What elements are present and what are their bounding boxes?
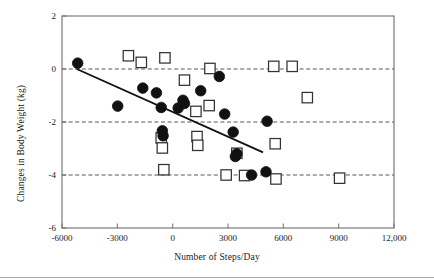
data-point-square [159, 165, 169, 175]
data-point-square [205, 63, 215, 73]
data-point-square [123, 51, 133, 61]
data-point-square [287, 61, 297, 71]
data-point-circle [158, 130, 169, 141]
data-point-circle [246, 170, 257, 181]
open-squares-series [123, 51, 345, 185]
x-tick-label: -6000 [52, 233, 73, 243]
data-point-circle [232, 149, 243, 160]
x-tick-label: 0 [170, 233, 175, 243]
x-tick-label: 9000 [330, 233, 348, 243]
data-point-square [302, 92, 312, 102]
data-point-circle [214, 71, 225, 82]
data-point-circle [137, 83, 148, 94]
y-tick-label: 2 [38, 11, 56, 21]
filled-circles-series [72, 58, 272, 180]
data-point-circle [262, 116, 273, 127]
data-point-square [160, 53, 170, 63]
data-point-circle [156, 102, 167, 113]
y-tick-label: 0 [38, 64, 56, 74]
x-tick-label: -3000 [107, 233, 128, 243]
data-point-square [136, 57, 146, 67]
trendline-group [77, 69, 263, 152]
data-point-circle [261, 167, 272, 178]
x-axis-title: Number of Steps/Day [0, 252, 434, 262]
data-point-square [271, 174, 281, 184]
data-point-square [193, 140, 203, 150]
data-point-square [269, 61, 279, 71]
x-tick-label: 6000 [274, 233, 292, 243]
data-point-square [270, 139, 280, 149]
y-tick-label: -2 [38, 117, 56, 127]
data-point-square [221, 170, 231, 180]
regression-line [77, 69, 263, 152]
data-point-square [334, 173, 344, 183]
data-point-circle [219, 109, 230, 120]
data-point-circle [112, 101, 123, 112]
data-point-square [179, 75, 189, 85]
x-tick-label: 3000 [219, 233, 237, 243]
data-point-circle [228, 127, 239, 138]
data-point-circle [151, 88, 162, 99]
y-tick-label: -6 [38, 223, 56, 233]
data-point-circle [179, 98, 190, 109]
x-tick-label: 12,000 [382, 233, 407, 243]
data-point-square [204, 100, 214, 110]
footer-rule [0, 277, 434, 278]
data-point-square [157, 143, 167, 153]
data-point-circle [72, 58, 83, 69]
y-axis-title: Changes in Body Weight (kg) [16, 85, 26, 202]
y-tick-label: -4 [38, 170, 56, 180]
data-point-circle [195, 85, 206, 96]
data-point-square [191, 106, 201, 116]
figure-container: -6000-3000030006000900012,000 20-2-4-6 N… [0, 0, 434, 280]
